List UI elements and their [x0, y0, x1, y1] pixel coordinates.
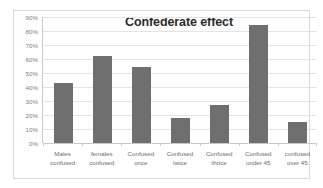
bar[interactable] [288, 122, 306, 143]
x-tick [316, 143, 317, 146]
bar-series [44, 17, 317, 143]
x-tick [160, 143, 199, 147]
x-category-label: Confused thrice [200, 150, 239, 167]
x-category-label: Males confused [43, 150, 82, 167]
chart-frame: Confederate effect 90% 80% 70% 60% 50% 4… [13, 10, 310, 179]
bar-slot [161, 17, 200, 143]
bar-slot [122, 17, 161, 143]
x-category-label: females confused [82, 150, 121, 167]
x-category-label: confused over 45 [278, 150, 317, 167]
y-axis-tick-labels: 90% 80% 70% 60% 50% 40% 30% 20% 10% 0% [14, 17, 40, 143]
plot-area [42, 17, 317, 143]
x-tick [278, 143, 317, 147]
bar-slot [200, 17, 239, 143]
y-tick-label: 70% [26, 41, 38, 48]
y-tick-label: 40% [26, 83, 38, 90]
chart-plot-wrapper: Confederate effect 90% 80% 70% 60% 50% 4… [14, 11, 309, 178]
x-tick [43, 143, 82, 147]
x-tick [200, 143, 239, 147]
bar[interactable] [132, 67, 150, 143]
bar-slot [239, 17, 278, 143]
x-tick [121, 143, 160, 147]
y-tick-label: 60% [26, 55, 38, 62]
bar[interactable] [249, 25, 267, 143]
y-tick-label: 10% [26, 125, 38, 132]
y-tick-label: 20% [26, 111, 38, 118]
bar[interactable] [54, 83, 72, 143]
x-axis-ticks [43, 143, 317, 147]
y-tick-label: 90% [26, 14, 38, 21]
bar[interactable] [171, 118, 189, 143]
x-category-label: Confused under 45 [239, 150, 278, 167]
y-tick-label: 80% [26, 27, 38, 34]
x-tick [82, 143, 121, 147]
bar[interactable] [93, 56, 111, 143]
x-axis-category-labels: Males confused females confused Confused… [43, 150, 317, 167]
y-tick-label: 30% [26, 97, 38, 104]
bar[interactable] [210, 105, 228, 143]
bar-slot [83, 17, 122, 143]
bar-slot [278, 17, 317, 143]
x-category-label: Confused once [121, 150, 160, 167]
x-category-label: Confused twice [160, 150, 199, 167]
y-tick-label: 0% [29, 140, 38, 147]
y-tick-label: 50% [26, 69, 38, 76]
x-tick [239, 143, 278, 147]
bar-slot [44, 17, 83, 143]
